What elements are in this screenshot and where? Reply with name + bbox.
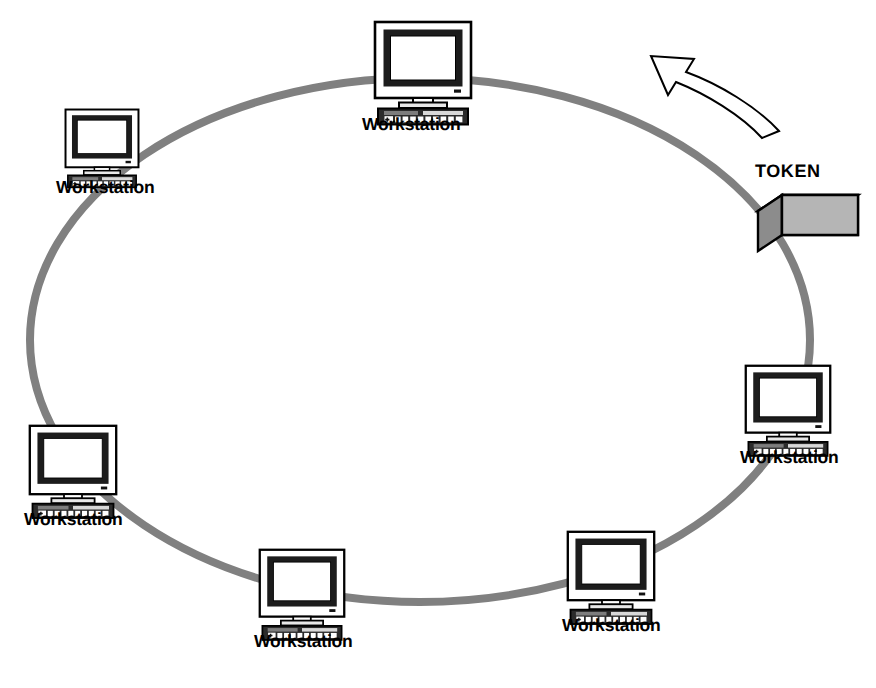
workstation-label: Workstation <box>562 617 661 635</box>
workstation-bottom-left[interactable] <box>260 550 344 640</box>
workstation-label: Workstation <box>24 511 123 529</box>
workstation-computer-icon <box>30 426 116 518</box>
workstation-label: Workstation <box>362 116 461 134</box>
workstation-computer-icon <box>746 366 830 456</box>
token-box-front-face-overlay <box>782 195 858 235</box>
workstation-left[interactable] <box>30 426 116 518</box>
workstation-label: Workstation <box>254 633 353 651</box>
workstation-computer-icon <box>66 110 139 188</box>
workstation-right[interactable] <box>746 366 830 456</box>
workstation-top[interactable] <box>375 22 471 125</box>
token-box <box>758 195 858 251</box>
diagram-canvas: WorkstationWorkstationWorkstationWorksta… <box>0 0 876 688</box>
workstation-label: Workstation <box>56 179 155 197</box>
token-label: TOKEN <box>755 162 821 180</box>
workstation-computer-icon <box>260 550 344 640</box>
token-ring-diagram <box>0 0 876 688</box>
workstation-computer-icon <box>375 22 471 125</box>
workstation-label: Workstation <box>740 449 839 467</box>
workstation-upper-left[interactable] <box>66 110 139 188</box>
workstation-bottom-right[interactable] <box>568 532 654 624</box>
counterclockwise-flow-arrow <box>651 56 779 138</box>
workstation-computer-icon <box>568 532 654 624</box>
token-ring-cable <box>30 78 810 602</box>
